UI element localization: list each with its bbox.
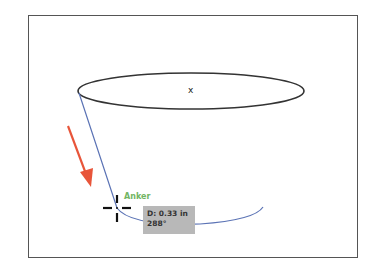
drawing-canvas[interactable] bbox=[0, 0, 378, 279]
measurement-tooltip: D: 0.33 in 288° bbox=[143, 206, 195, 234]
ellipse-center-mark: x bbox=[188, 85, 193, 95]
pen-path[interactable] bbox=[79, 93, 263, 224]
distance-value: D: 0.33 in bbox=[147, 209, 191, 219]
anchor-snap-label: Anker bbox=[124, 192, 150, 201]
angle-value: 288° bbox=[147, 219, 191, 229]
annotation-arrow-icon bbox=[68, 126, 93, 187]
